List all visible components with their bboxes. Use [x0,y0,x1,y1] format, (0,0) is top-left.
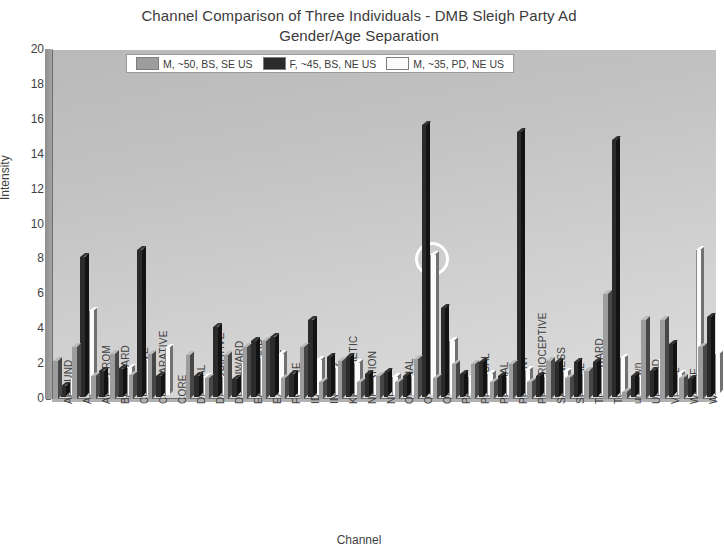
bar-side [104,366,108,396]
bar-side [275,333,279,396]
bar-side [58,356,62,399]
bar-side [654,366,658,396]
bar [137,250,141,397]
bar-face [395,382,399,399]
y-axis-tick-label: 8 [14,251,44,265]
bar-face [99,371,103,397]
bar-face [327,357,331,397]
y-axis-title: Intensity [0,155,12,200]
bar-side [578,358,582,397]
bar [308,320,312,397]
bar-group [565,50,584,399]
bar-face [430,255,435,395]
y-axis-tick-label: 2 [14,356,44,370]
bar [707,317,711,397]
chart-title-line1: Channel Comparison of Three Individuals … [141,7,576,24]
bar [156,376,160,397]
bar-side [665,316,669,399]
bar [338,361,342,399]
bar-face [688,379,692,396]
bar-face [593,362,597,397]
bar-face [471,364,475,399]
bar-group [376,50,395,399]
bar-face [308,320,312,397]
bar [509,364,513,399]
legend-label: M, ~35, PD, NE US [413,58,504,70]
bar [129,375,133,399]
x-axis-title: Channel [0,533,718,547]
bar-face [270,337,274,396]
bar [346,357,350,397]
bar [622,392,626,399]
bar-group [509,50,528,399]
bar [80,257,84,397]
bar-side [342,356,346,399]
bar-side [418,355,422,399]
bar-face [490,382,494,399]
bar [574,362,578,397]
bar-group [262,50,281,399]
bar-side [142,246,146,397]
bar [490,382,494,399]
chart-title-line2: Gender/Age Separation [0,26,718,46]
legend-item[interactable]: M, ~35, PD, NE US [386,57,504,70]
legend-swatch-icon [136,57,159,70]
bar [262,341,266,399]
bar-face [498,376,502,397]
bar-face [156,376,160,397]
bar-face [357,382,361,399]
legend-label: M, ~50, BS, SE US [163,58,253,70]
y-axis-line [52,50,53,399]
bar-side [152,349,156,399]
bar-face [574,362,578,397]
bar [289,374,293,397]
bar-face [137,250,141,397]
bar-face [224,355,228,399]
bar [479,362,483,397]
bar-face [707,317,711,397]
bar-face [319,382,323,399]
bar-side [456,360,460,399]
bar [251,341,255,397]
bar-face [650,371,654,397]
bar-face [194,376,198,397]
bar [270,337,274,396]
bar-face [403,376,407,397]
bar-face [61,386,65,396]
legend-label: F, ~45, BS, NE US [290,58,377,70]
bar-face [631,376,635,397]
bar-face [72,347,76,399]
bar-face [460,374,464,397]
bar-face [243,347,247,399]
bar-face [422,125,426,397]
bar [555,362,559,397]
bar-side [483,358,487,397]
bar [584,371,588,399]
bar [612,140,616,397]
bar-face [148,354,152,399]
bar-group [72,50,91,399]
bar-face [251,341,255,397]
bar [414,359,418,399]
bar-face [509,364,513,399]
bar-group [357,50,376,399]
bar-group [603,50,622,399]
bar-group [414,50,433,399]
bar [715,354,719,394]
bar-side [703,343,707,399]
bar [384,372,388,396]
bar [441,308,445,397]
y-axis-tick-label: 18 [14,77,44,91]
bar [679,378,683,399]
bar-face [53,361,57,399]
bar-side [123,365,127,397]
legend-item[interactable]: M, ~50, BS, SE US [136,57,253,70]
bar [53,361,57,399]
chart-legend[interactable]: M, ~50, BS, SE USF, ~45, BS, NE USM, ~35… [126,54,514,73]
bar-face [584,371,588,399]
bar-face [698,347,702,399]
bar-side [294,370,298,397]
bar [243,347,247,399]
y-axis-tick-label: 6 [14,286,44,300]
legend-item[interactable]: F, ~45, BS, NE US [263,57,377,70]
